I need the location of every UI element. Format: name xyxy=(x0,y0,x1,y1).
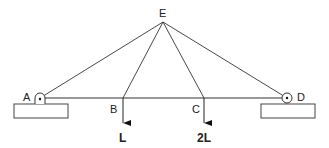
support-block-right xyxy=(261,104,315,118)
node-label-B: B xyxy=(110,103,117,115)
load-label-C: 2L xyxy=(197,131,211,145)
load-label-B: L xyxy=(119,131,126,145)
node-label-C: C xyxy=(192,103,200,115)
node-label-A: A xyxy=(23,91,31,103)
node-label-E: E xyxy=(159,7,166,19)
member-DE xyxy=(163,22,287,98)
pin-A-dot xyxy=(39,98,41,100)
support-block-left xyxy=(14,104,68,118)
member-CE xyxy=(163,22,204,98)
member-BE xyxy=(123,22,163,98)
member-AE xyxy=(40,22,163,98)
roller-D-dot xyxy=(286,97,288,99)
truss-diagram: E A B C D L 2L xyxy=(0,0,329,148)
node-label-D: D xyxy=(297,91,305,103)
